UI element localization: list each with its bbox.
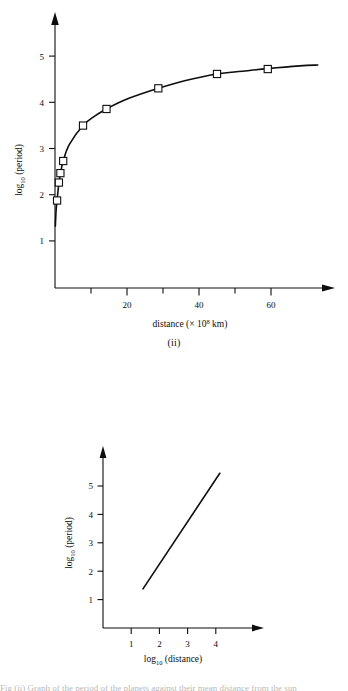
chart-ii-data-point-4 — [60, 157, 67, 164]
chart-ii-y-tick-label-1: 1 — [40, 236, 45, 246]
chart-iii-y-tick-label-4: 4 — [89, 510, 94, 520]
chart-ii-data-point-6 — [103, 105, 110, 112]
chart-iii-plot: 1 2 3 4 5 1 2 3 4 log10 (distance) log10… — [0, 400, 348, 665]
chart-ii-x-axis — [55, 284, 335, 291]
chart-iii-x-tick-label-1: 1 — [129, 639, 134, 649]
figure-ii-caption: (ii) — [0, 337, 348, 348]
chart-ii-y-tick-label-5: 5 — [40, 52, 45, 62]
chart-ii-data-point-1 — [53, 197, 60, 204]
figure-iii: 1 2 3 4 5 1 2 3 4 log10 (distance) log10… — [0, 400, 348, 691]
chart-ii-data-point-9 — [264, 65, 271, 72]
chart-ii-data-point-5 — [79, 122, 86, 129]
chart-ii-y-axis — [51, 12, 59, 288]
chart-iii-data-line — [143, 473, 220, 589]
chart-iii-y-title-main: log — [64, 556, 74, 568]
chart-ii-x-title-unit: km) — [210, 319, 228, 330]
chart-ii-x-tick-label-60: 60 — [267, 300, 277, 310]
chart-ii-data-point-2 — [55, 179, 62, 186]
chart-iii-x-axis-title: log10 (distance) — [144, 654, 202, 665]
chart-ii-x-tick-label-40: 40 — [195, 300, 205, 310]
chart-iii-y-axis — [100, 446, 107, 628]
chart-ii-data-point-8 — [213, 70, 220, 77]
figure-ii: 1 2 3 4 5 20 40 60 distance (× 108 km) l… — [0, 0, 348, 355]
page-footer-cut-text: Fig (ii) Graph of the period of the plan… — [0, 684, 348, 691]
chart-iii-x-axis — [103, 625, 264, 632]
chart-ii-y-title-rest: (period) — [14, 144, 25, 177]
chart-iii-x-title-rest: (distance) — [162, 654, 202, 665]
chart-iii-x-ticks — [131, 628, 216, 634]
chart-iii-x-tick-label-4: 4 — [214, 639, 219, 649]
chart-ii-y-tick-label-2: 2 — [40, 190, 45, 200]
chart-ii-plot: 1 2 3 4 5 20 40 60 distance (× 108 km) l… — [0, 0, 348, 340]
chart-iii-y-tick-label-5: 5 — [89, 481, 94, 491]
chart-ii-x-ticks — [91, 288, 271, 296]
chart-ii-y-tick-label-3: 3 — [40, 144, 45, 154]
chart-ii-y-axis-title: log10 (period) — [14, 144, 26, 196]
chart-ii-y-title-main: log — [14, 183, 24, 195]
chart-ii-x-axis-title: distance (× 108 km) — [153, 318, 228, 331]
chart-iii-y-tick-label-2: 2 — [89, 567, 94, 577]
chart-ii-data-markers — [53, 65, 271, 204]
chart-iii-y-title-rest: (period) — [64, 517, 75, 550]
chart-ii-y-tick-label-4: 4 — [40, 98, 45, 108]
chart-ii-data-point-7 — [155, 85, 162, 92]
chart-ii-x-tick-label-20: 20 — [123, 300, 133, 310]
chart-iii-y-tick-label-3: 3 — [89, 538, 94, 548]
chart-iii-x-tick-label-3: 3 — [185, 639, 190, 649]
chart-ii-data-curve — [55, 65, 317, 226]
chart-iii-y-tick-label-1: 1 — [89, 595, 94, 605]
chart-iii-x-tick-label-2: 2 — [157, 639, 162, 649]
chart-ii-x-title-main: distance ( — [153, 319, 190, 330]
chart-ii-data-point-3 — [57, 170, 64, 177]
chart-iii-y-axis-title: log10 (period) — [64, 517, 76, 569]
chart-ii-x-title-times: × 10 — [189, 319, 206, 329]
chart-iii-x-title-main: log — [144, 654, 156, 664]
chart-iii-y-ticks — [98, 486, 104, 600]
chart-ii-y-ticks — [49, 56, 55, 241]
